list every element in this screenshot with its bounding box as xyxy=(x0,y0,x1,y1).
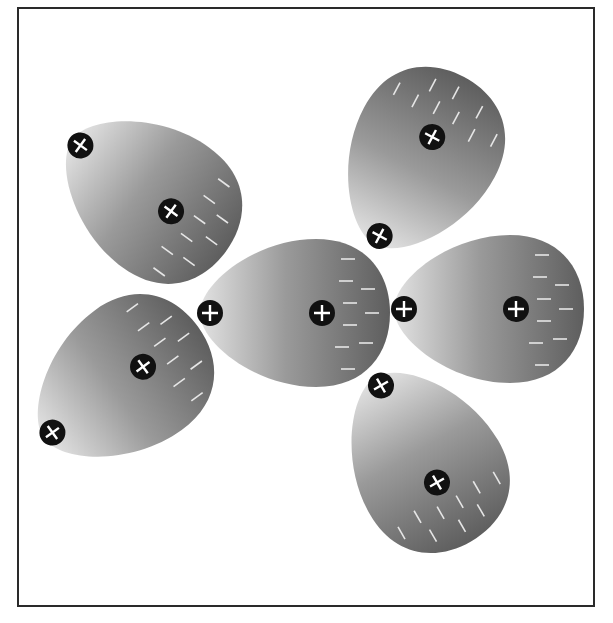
positive-charge-tip xyxy=(197,300,223,326)
positive-charge-center xyxy=(503,296,529,322)
positive-charge-tip xyxy=(391,296,417,322)
positive-charge-center xyxy=(309,300,335,326)
molecule-center xyxy=(197,239,390,387)
molecule-body xyxy=(200,239,390,387)
dipole-diagram xyxy=(0,0,613,623)
molecule-right xyxy=(391,235,584,383)
molecules-group xyxy=(0,42,584,578)
molecule-body xyxy=(394,235,584,383)
